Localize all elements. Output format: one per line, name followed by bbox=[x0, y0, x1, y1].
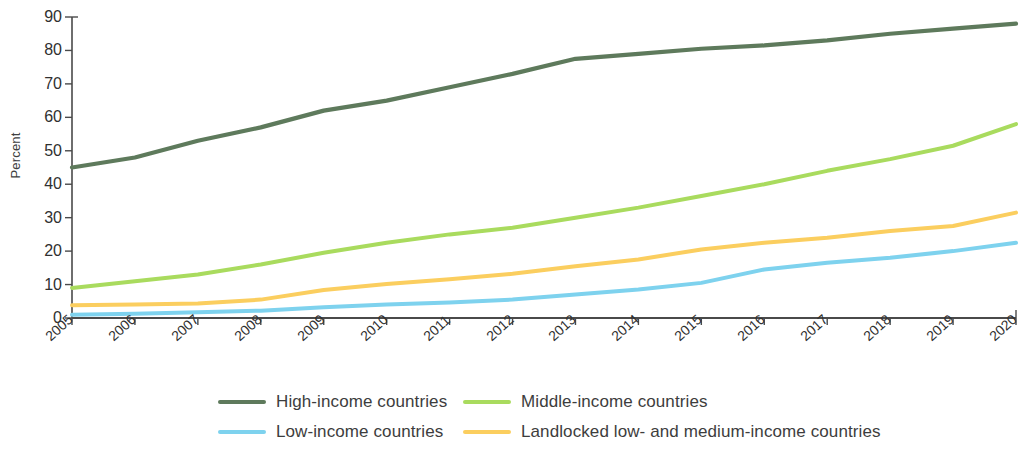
legend-item[interactable]: High-income countries bbox=[218, 392, 447, 412]
legend-label: Low-income countries bbox=[276, 422, 443, 442]
line-chart: Percent 0102030405060708090 200520062007… bbox=[0, 0, 1028, 450]
legend-swatch-icon bbox=[218, 430, 266, 434]
legend-item[interactable]: Middle-income countries bbox=[463, 392, 708, 412]
series-line-0 bbox=[72, 24, 1016, 168]
legend-item[interactable]: Low-income countries bbox=[218, 422, 443, 442]
axis-lines bbox=[65, 17, 1016, 325]
chart-legend: High-income countriesMiddle-income count… bbox=[0, 392, 1028, 450]
series-lines bbox=[72, 24, 1016, 315]
legend-swatch-icon bbox=[463, 400, 511, 404]
legend-label: Landlocked low- and medium-income countr… bbox=[521, 422, 881, 442]
legend-label: High-income countries bbox=[276, 392, 447, 412]
plot-area bbox=[0, 0, 1028, 450]
legend-swatch-icon bbox=[463, 430, 511, 434]
legend-label: Middle-income countries bbox=[521, 392, 708, 412]
legend-item[interactable]: Landlocked low- and medium-income countr… bbox=[463, 422, 881, 442]
series-line-1 bbox=[72, 124, 1016, 288]
legend-swatch-icon bbox=[218, 400, 266, 404]
